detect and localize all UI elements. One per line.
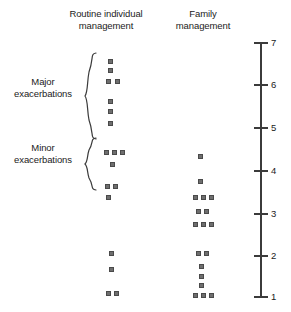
data-point-marker bbox=[198, 154, 203, 159]
data-point-marker bbox=[198, 179, 203, 184]
data-point-marker bbox=[209, 293, 214, 298]
axis-tick-label: 3 bbox=[271, 209, 276, 219]
axis-line bbox=[260, 42, 262, 296]
axis-tick-label: 7 bbox=[271, 38, 276, 48]
data-point-marker bbox=[199, 274, 204, 279]
axis-tick-label: 5 bbox=[271, 123, 276, 133]
data-point-marker bbox=[209, 222, 214, 227]
axis-tick bbox=[254, 170, 268, 172]
data-point-marker bbox=[193, 293, 198, 298]
axis-tick-label: 1 bbox=[271, 292, 276, 302]
data-point-marker bbox=[204, 209, 209, 214]
axis-tick-label: 2 bbox=[271, 251, 276, 261]
scatter-plot-figure: Routine individual management Family man… bbox=[0, 0, 291, 312]
axis-tick bbox=[254, 296, 268, 298]
axis-tick-label: 6 bbox=[271, 80, 276, 90]
axis-tick bbox=[254, 42, 268, 44]
data-point-marker bbox=[193, 195, 198, 200]
data-point-marker bbox=[201, 195, 206, 200]
data-point-marker bbox=[209, 195, 214, 200]
axis-tick bbox=[254, 255, 268, 257]
axis-tick bbox=[254, 127, 268, 129]
axis-tick bbox=[254, 84, 268, 86]
data-point-marker bbox=[196, 209, 201, 214]
data-point-marker bbox=[201, 222, 206, 227]
data-point-marker bbox=[199, 264, 204, 269]
data-point-marker bbox=[204, 251, 209, 256]
data-point-marker bbox=[201, 293, 206, 298]
data-point-marker bbox=[199, 283, 204, 288]
axis-tick bbox=[254, 213, 268, 215]
value-axis: 7654321 bbox=[246, 30, 291, 310]
data-point-marker bbox=[193, 222, 198, 227]
data-point-marker bbox=[196, 251, 201, 256]
axis-tick-label: 4 bbox=[271, 166, 276, 176]
